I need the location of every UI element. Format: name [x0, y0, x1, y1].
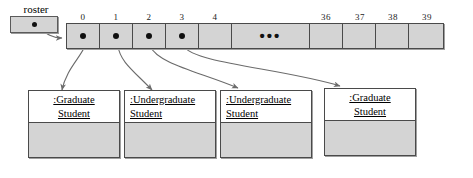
array: 0 1 2 3 4 36 37 38 39 •••: [66, 12, 446, 49]
object-header: :Undergraduate Student: [125, 91, 215, 123]
array-cell-38[interactable]: [376, 24, 409, 48]
object-name: :Undergraduate Student: [226, 93, 306, 121]
object-box-undergraduate-student-2[interactable]: :Undergraduate Student: [220, 90, 312, 158]
array-index-37: 37: [348, 12, 372, 22]
roster-reference-box: [10, 16, 58, 33]
object-header: :Graduate Student: [325, 89, 415, 121]
reference-dot-icon: [146, 33, 152, 39]
object-name: :Graduate Student: [34, 93, 114, 121]
array-index-2: 2: [137, 12, 161, 22]
object-name: :Graduate Student: [330, 91, 410, 119]
object-header: :Graduate Student: [29, 91, 119, 123]
array-index-39: 39: [415, 12, 439, 22]
object-name: :Undergraduate Student: [130, 93, 210, 121]
reference-dot-icon: [113, 33, 119, 39]
roster-variable: roster: [10, 3, 60, 33]
arrow-cell3-to-object4: [183, 46, 340, 86]
array-cell-37[interactable]: [343, 24, 376, 48]
array-index-labels: 0 1 2 3 4 36 37 38 39: [66, 12, 446, 23]
array-cells: •••: [66, 23, 444, 49]
object-box-graduate-student-2[interactable]: :Graduate Student: [324, 88, 416, 156]
arrow-cell1-to-object2: [118, 46, 152, 90]
roster-label: roster: [12, 3, 60, 15]
array-cell-3[interactable]: [166, 24, 199, 48]
array-cell-1[interactable]: [100, 24, 133, 48]
object-body: [125, 123, 215, 157]
array-index-38: 38: [381, 12, 405, 22]
array-index-3: 3: [170, 12, 194, 22]
reference-dot-icon: [80, 33, 86, 39]
ellipsis-icon: •••: [260, 31, 282, 41]
array-index-4: 4: [203, 12, 227, 22]
object-body: [29, 123, 119, 157]
array-cell-36[interactable]: [310, 24, 343, 48]
array-index-1: 1: [104, 12, 128, 22]
array-cell-ellipsis: •••: [232, 24, 310, 48]
array-cell-0[interactable]: [67, 24, 100, 48]
array-cell-2[interactable]: [133, 24, 166, 48]
reference-dot-icon: [179, 33, 185, 39]
object-header: :Undergraduate Student: [221, 91, 311, 123]
arrow-cell2-to-object3: [150, 46, 238, 88]
reference-dot-icon: [32, 22, 37, 27]
array-index-36: 36: [314, 12, 338, 22]
arrow-cell0-to-object1: [62, 46, 85, 90]
object-box-graduate-student-1[interactable]: :Graduate Student: [28, 90, 120, 158]
array-index-0: 0: [71, 12, 95, 22]
object-body: [221, 123, 311, 157]
array-cell-4[interactable]: [199, 24, 232, 48]
object-box-undergraduate-student-1[interactable]: :Undergraduate Student: [124, 90, 216, 158]
object-diagram: roster 0 1 2 3 4 36 37 38 39: [0, 0, 473, 178]
object-body: [325, 121, 415, 155]
array-cell-39[interactable]: [409, 24, 443, 48]
